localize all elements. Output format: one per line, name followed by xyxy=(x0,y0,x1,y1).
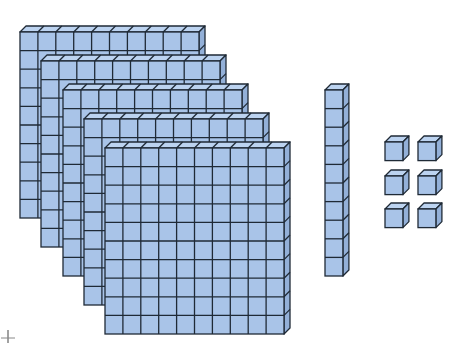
unit-cube-3 xyxy=(385,170,409,195)
unit-cube-5 xyxy=(385,203,409,228)
tens-rod-1 xyxy=(325,84,349,276)
unit-cube-6 xyxy=(418,203,442,228)
hundreds-flat-5 xyxy=(105,142,290,334)
unit-cube-4 xyxy=(418,170,442,195)
unit-cube-1 xyxy=(385,136,409,161)
unit-cube-2 xyxy=(418,136,442,161)
hundreds-flats-group xyxy=(20,26,290,334)
crosshair-cursor-icon xyxy=(1,330,15,343)
unit-cubes-group xyxy=(385,136,442,228)
tens-rods-group xyxy=(325,84,349,276)
base-ten-blocks-diagram xyxy=(0,0,451,343)
